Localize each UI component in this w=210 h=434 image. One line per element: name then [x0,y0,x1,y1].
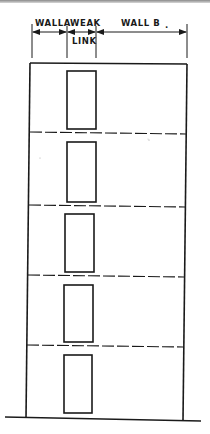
floor-line-3 [28,275,184,277]
label-weak: WEAK [70,18,101,28]
opening-floor-1 [64,355,92,413]
label-link: LINK [72,36,97,46]
right-wall [183,64,187,420]
ground-line [5,417,201,421]
wall-elevation-diagram: WALLA WEAK LINK WALL B . [0,0,210,434]
openings [64,71,96,413]
floor-line-4 [29,205,185,207]
opening-floor-5 [67,71,96,129]
label-wall-a: WALLA [35,18,71,28]
label-wall-b: WALL B [121,18,160,28]
floor-lines [27,132,186,347]
floor-line-5 [30,132,186,134]
opening-floor-4 [67,142,96,202]
floor-line-2 [27,345,183,347]
building-outline [26,63,187,420]
dimension-extension-lines [32,24,187,58]
opening-floor-2 [64,285,93,342]
opening-floor-3 [65,214,94,272]
left-wall [26,63,30,418]
roof-line [30,63,187,64]
label-wall-b-mark: . [165,20,169,30]
